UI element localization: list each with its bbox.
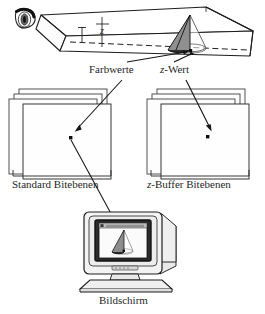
label-zbuffer-suffix: -Buffer Bitebenen — [151, 178, 231, 190]
label-z-axis: z — [100, 26, 104, 36]
crt-monitor — [80, 212, 176, 292]
label-farbwerte: Farbwerte — [89, 64, 134, 75]
label-standard-bitebenen: Standard Bitebenen — [12, 179, 98, 190]
label-zbuffer-bitebenen: z-Buffer Bitebenen — [147, 179, 231, 190]
standard-bitplanes — [9, 89, 111, 179]
standard-bitplane-pixel — [69, 136, 72, 139]
viewing-frustum — [36, 7, 253, 56]
label-bildschirm: Bildschirm — [99, 295, 148, 306]
eye-icon — [15, 9, 35, 28]
zbuffer-pipeline-figure — [0, 0, 265, 314]
label-z-wert-suffix: -Wert — [164, 63, 189, 75]
zbuffer-bitplane-pixel — [206, 135, 209, 138]
zbuffer-bitplanes — [147, 89, 249, 179]
label-z-wert: z-Wert — [160, 64, 189, 75]
